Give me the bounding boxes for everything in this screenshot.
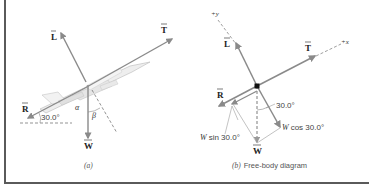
caption-b: (b)Free-body diagram	[232, 161, 307, 170]
construction-line-2	[257, 128, 280, 143]
angle-label-30-a: 30.0°	[41, 113, 60, 122]
lift-vector-b	[236, 43, 257, 86]
w-cos-label: Wcos 30.0°	[282, 123, 324, 132]
panel-a: L T R W 30.0° α β (a)	[20, 24, 172, 170]
caption-a: (a)	[84, 161, 93, 170]
angle-label-30-b: 30.0°	[276, 101, 295, 110]
label-L-b: L	[224, 39, 230, 49]
label-T-a: T	[161, 25, 167, 35]
angle-arc-30-b	[257, 107, 268, 110]
w-sin-label: Wsin 30.0°	[200, 133, 240, 142]
x-axis-dashed	[316, 44, 341, 56]
center-of-mass-dot	[255, 84, 260, 89]
diagram-canvas: L T R W 30.0° α β (a) +y +x	[0, 0, 369, 190]
label-L-a: L	[51, 32, 57, 42]
label-T-b: T	[305, 43, 311, 53]
label-W-b: W	[253, 146, 262, 156]
aircraft-icon	[40, 62, 150, 113]
label-R-a: R	[22, 104, 29, 114]
axis-label-x: +x	[341, 38, 350, 46]
lift-vector-a	[61, 33, 86, 82]
axis-label-y: +y	[211, 10, 220, 18]
panel-b: +y +x L T R W 30.0°	[200, 10, 350, 170]
drag-vector-b	[219, 86, 257, 106]
alpha-label: α	[75, 103, 80, 112]
label-W-a: W	[84, 141, 93, 151]
label-R-b: R	[217, 90, 224, 100]
thrust-vector-a	[85, 39, 172, 88]
beta-label: β	[91, 111, 96, 120]
thrust-vector-b	[257, 56, 315, 86]
